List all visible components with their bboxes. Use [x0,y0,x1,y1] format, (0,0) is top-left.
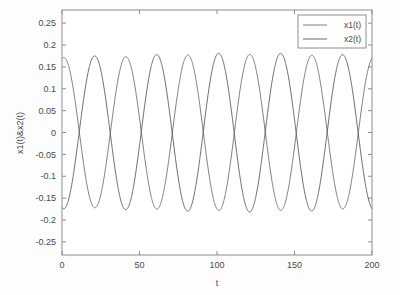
x-tick-label: 150 [287,260,302,270]
legend-label-x2: x2(t) [344,34,361,44]
legend-label-x1: x1(t) [344,20,361,30]
y-tick-label: -0.25 [35,237,56,247]
y-tick-label: -0.05 [35,150,56,160]
y-tick-label: 0.2 [43,40,56,50]
x-tick-label: 200 [364,260,379,270]
y-tick-label: 0.25 [38,18,56,28]
y-tick-label: 0 [51,128,56,138]
x-tick-label: 100 [209,260,224,270]
y-tick-label: 0.05 [38,106,56,116]
y-tick-label: 0.15 [38,62,56,72]
y-tick-label: -0.1 [40,171,56,181]
y-tick-label: -0.2 [40,215,56,225]
legend[interactable]: x1(t) x2(t) [298,15,366,48]
y-tick-label: 0.1 [43,84,56,94]
y-tick-label: -0.15 [35,193,56,203]
y-axis-title: x1(t)&x2(t) [15,112,25,154]
figure-canvas: 0.250.20.150.10.050-0.05-0.1-0.15-0.2-0.… [0,0,400,295]
plot-svg: 0.250.20.150.10.050-0.05-0.1-0.15-0.2-0.… [0,0,400,295]
x-tick-label: 50 [134,260,144,270]
x-tick-label: 0 [59,260,64,270]
